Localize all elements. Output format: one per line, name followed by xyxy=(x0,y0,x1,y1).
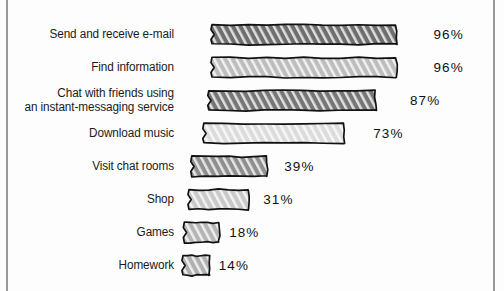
bar-row: Games18% xyxy=(0,216,504,249)
bar-category-label-line1: Homework xyxy=(119,259,174,273)
bar-shape xyxy=(211,57,397,78)
bar-category-label: Shop xyxy=(24,183,174,216)
bar xyxy=(173,186,264,213)
bar-shape xyxy=(208,90,377,111)
bar xyxy=(173,153,285,180)
bar-shape xyxy=(182,255,210,276)
bar-category-label: Chat with friends usingan instant-messag… xyxy=(24,84,174,117)
bar-row: Shop31% xyxy=(0,183,504,216)
bar-value-label: 39% xyxy=(284,150,314,183)
bar-category-label: Send and receive e-mail xyxy=(24,18,174,51)
bar-row: Chat with friends usingan instant-messag… xyxy=(0,84,504,117)
bar-value-label: 87% xyxy=(410,84,440,117)
bar-value-label: 31% xyxy=(263,183,293,216)
bar xyxy=(173,252,220,279)
bar-shape xyxy=(188,189,249,210)
bar-value-label: 96% xyxy=(434,18,464,51)
bar-value-label: 73% xyxy=(373,117,403,150)
bar xyxy=(173,219,230,246)
bar-value-label: 96% xyxy=(434,51,464,84)
bar xyxy=(173,54,435,81)
bar-row: Homework14% xyxy=(0,249,504,282)
bar xyxy=(173,21,435,48)
bar xyxy=(173,87,411,114)
bar-category-label-line1: Shop xyxy=(147,193,174,207)
bar-row: Send and receive e-mail96% xyxy=(0,18,504,51)
bar-category-label: Visit chat rooms xyxy=(24,150,174,183)
bar-row: Visit chat rooms39% xyxy=(0,150,504,183)
bar-shape xyxy=(183,222,220,243)
bar-category-label: Download music xyxy=(24,117,174,150)
bar-row: Find information96% xyxy=(0,51,504,84)
bar-category-label-line1: Chat with friends using xyxy=(57,87,174,101)
chart-figure: Send and receive e-mail96%Find informati… xyxy=(0,0,504,291)
bar-category-label-line1: Find information xyxy=(91,61,174,75)
bar-value-label: 14% xyxy=(219,249,249,282)
bar-shape xyxy=(191,156,268,177)
bar-category-label-line1: Games xyxy=(137,226,174,240)
bar-category-label-line1: Download music xyxy=(89,127,174,141)
bar-category-label: Find information xyxy=(24,51,174,84)
bar-value-label: 18% xyxy=(229,216,259,249)
bar-shape xyxy=(203,123,345,144)
bar-category-label-line1: Visit chat rooms xyxy=(92,160,174,174)
bar-category-label-line2: an instant-messaging service xyxy=(24,101,174,115)
bar-shape xyxy=(211,24,397,45)
bar-category-label: Games xyxy=(24,216,174,249)
bar-row: Download music73% xyxy=(0,117,504,150)
bar xyxy=(173,120,374,147)
bar-category-label-line1: Send and receive e-mail xyxy=(49,28,174,42)
bar-category-label: Homework xyxy=(24,249,174,282)
bar-chart-plot-area: Send and receive e-mail96%Find informati… xyxy=(0,0,504,291)
